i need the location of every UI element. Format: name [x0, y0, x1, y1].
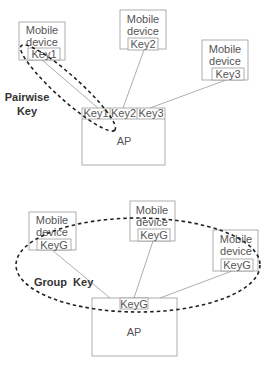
svg-text:Pairwise: Pairwise	[5, 91, 50, 103]
mobile-device-1: Mobile device Key1	[19, 22, 65, 60]
svg-text:device: device	[26, 36, 58, 48]
link-g-device3-ap	[160, 271, 232, 298]
pairwise-key-label: Pairwise Key	[5, 91, 50, 117]
group-mobile-device-3: Mobile device KeyG	[213, 230, 258, 271]
group-key-label: Group Key	[34, 276, 94, 288]
svg-text:Mobile: Mobile	[220, 233, 252, 245]
svg-text:Mobile: Mobile	[209, 43, 241, 55]
link-g-device1-ap	[52, 250, 110, 298]
svg-text:Key: Key	[17, 105, 38, 117]
link-device2-ap	[123, 50, 144, 108]
svg-text:device: device	[209, 55, 241, 67]
link-g-device2-ap	[134, 241, 153, 298]
svg-text:KeyG: KeyG	[223, 259, 251, 271]
svg-text:Mobile: Mobile	[36, 214, 68, 226]
mobile-device-3: Mobile device Key3	[202, 40, 248, 80]
group-mobile-device-2: Mobile device KeyG	[130, 201, 175, 241]
svg-text:Key3: Key3	[138, 107, 163, 119]
svg-text:Mobile: Mobile	[26, 24, 58, 36]
link-device1-ap	[42, 60, 98, 108]
svg-text:Key1: Key1	[83, 107, 108, 119]
svg-text:KeyG: KeyG	[40, 239, 68, 251]
svg-text:device: device	[127, 25, 159, 37]
svg-text:Key2: Key2	[130, 38, 155, 50]
access-point-pairwise: Key1 Key2 Key3 AP	[82, 107, 165, 165]
svg-text:Mobile: Mobile	[127, 13, 159, 25]
svg-text:device: device	[220, 245, 252, 257]
group-mobile-device-1: Mobile device KeyG	[29, 212, 76, 251]
svg-text:Key3: Key3	[215, 68, 240, 80]
mobile-device-2: Mobile device Key2	[120, 10, 166, 50]
svg-text:AP: AP	[127, 326, 142, 338]
svg-text:Mobile: Mobile	[136, 204, 168, 216]
svg-text:KeyG: KeyG	[140, 229, 168, 241]
svg-text:Key2: Key2	[111, 107, 136, 119]
wireless-key-diagram: Mobile device Key1 Mobile device Key2 Mo…	[0, 0, 271, 367]
svg-text:device: device	[36, 226, 68, 238]
link-device3-ap	[150, 80, 226, 108]
svg-text:AP: AP	[117, 135, 132, 147]
access-point-group: KeyG AP	[92, 298, 177, 357]
svg-text:KeyG: KeyG	[120, 298, 148, 310]
